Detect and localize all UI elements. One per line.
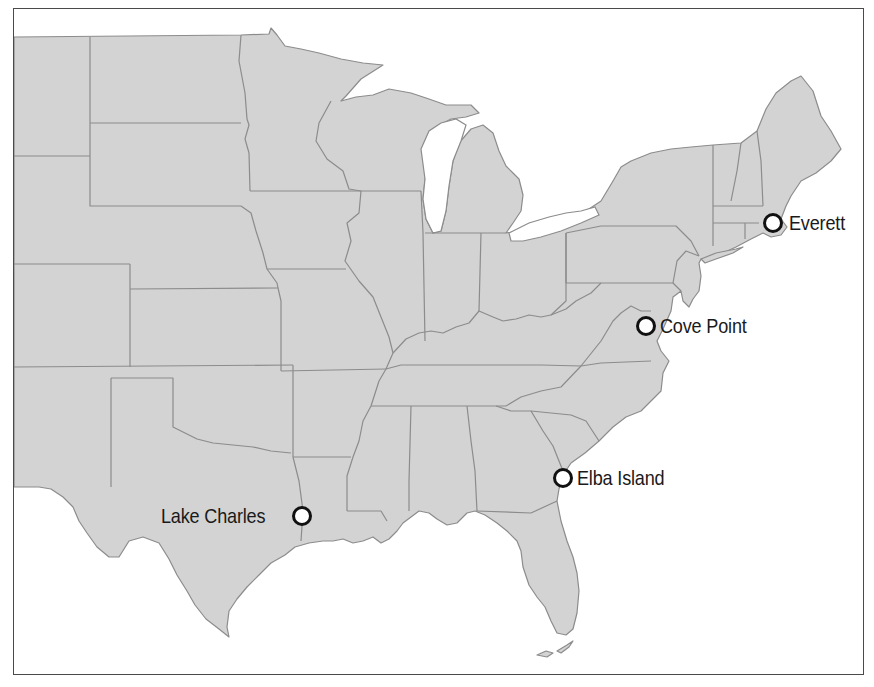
label-everett: Everett <box>789 212 845 233</box>
label-cove-point: Cove Point <box>660 315 747 336</box>
florida-keys <box>537 641 573 657</box>
marker-elba-island[interactable] <box>555 470 572 487</box>
marker-lake-charles[interactable] <box>294 508 311 525</box>
marker-everett[interactable] <box>765 215 782 232</box>
us-map <box>14 9 864 675</box>
label-lake-charles: Lake Charles <box>161 505 265 526</box>
label-elba-island: Elba Island <box>577 467 664 488</box>
map-frame <box>13 8 864 675</box>
marker-cove-point[interactable] <box>638 318 655 335</box>
